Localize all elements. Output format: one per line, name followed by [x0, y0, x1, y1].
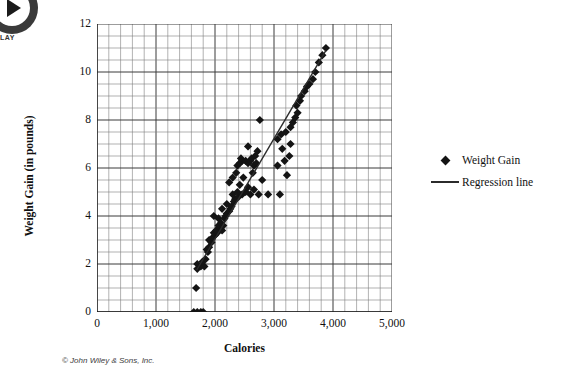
play-icon-ring	[0, 0, 30, 26]
line-marker-icon	[428, 181, 462, 183]
play-icon-triangle	[7, 0, 21, 17]
legend-label-regression-line: Regression line	[462, 176, 533, 188]
y-axis-title: Weight Gain (in pounds)	[23, 106, 35, 246]
y-axis-tick-labels: 024681012	[61, 24, 91, 312]
data-point	[192, 284, 200, 292]
legend-item-weight-gain: Weight Gain	[428, 149, 573, 171]
x-axis-tick-label: 2,000	[185, 318, 245, 330]
y-axis-tick-label: 0	[65, 306, 91, 318]
x-axis-tick-label: 1,000	[126, 318, 186, 330]
data-point	[276, 190, 284, 198]
x-axis-tick-label: 5,000	[362, 318, 422, 330]
x-axis-tick-labels: 01,0002,0003,0004,0005,000	[97, 318, 392, 334]
plot-series-layer	[97, 24, 392, 312]
regression-line	[197, 50, 326, 270]
legend-label-weight-gain: Weight Gain	[462, 154, 520, 166]
data-point	[286, 140, 294, 148]
data-point	[239, 174, 247, 182]
data-point	[264, 190, 272, 198]
x-axis-tick-label: 3,000	[244, 318, 304, 330]
y-axis-tick-label: 12	[65, 18, 91, 30]
y-axis-tick-label: 4	[65, 210, 91, 222]
scatter-plot	[97, 24, 392, 312]
x-axis-tick-label: 0	[67, 318, 127, 330]
y-axis-tick-label: 2	[65, 258, 91, 270]
diamond-marker-icon	[428, 157, 462, 164]
data-point	[273, 162, 281, 170]
data-point	[283, 171, 291, 179]
legend-item-regression-line: Regression line	[428, 171, 573, 193]
data-point	[278, 145, 286, 153]
data-point	[236, 181, 244, 189]
y-axis-tick-label: 10	[65, 66, 91, 78]
y-axis-tick-label: 6	[65, 162, 91, 174]
copyright-notice: © John Wiley & Sons, Inc.	[62, 356, 155, 365]
data-point	[244, 142, 252, 150]
play-icon[interactable]	[0, 0, 38, 34]
chart-legend: Weight Gain Regression line	[428, 149, 573, 193]
x-axis-title: Calories	[97, 342, 392, 354]
play-label: LAY	[0, 34, 15, 41]
data-point	[258, 176, 266, 184]
x-axis-tick-label: 4,000	[303, 318, 363, 330]
y-axis-tick-label: 8	[65, 114, 91, 126]
data-point	[256, 116, 264, 124]
